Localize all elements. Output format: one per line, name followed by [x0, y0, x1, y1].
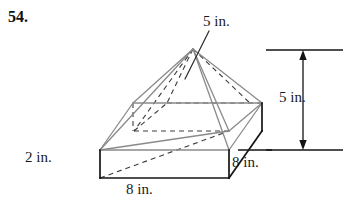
leader-line-path: [185, 31, 209, 79]
label-prism-thickness: 2 in.: [25, 149, 52, 166]
pyramid-hidden-edge-back-left: [167, 49, 193, 103]
pyramid-edge-back-left-silhouette: [133, 49, 193, 103]
prism-hidden-bottom-diagonal: [100, 131, 229, 178]
pyramid-face-fold-left: [100, 131, 229, 150]
label-total-height: 5 in.: [279, 89, 306, 106]
slant-leader-line: [185, 31, 209, 79]
pyramid-hidden-edge-front-left: [134, 49, 193, 131]
pyramid-edge-right-silhouette: [193, 49, 262, 103]
label-prism-width: 8 in.: [126, 181, 153, 198]
pyramid-edge-front-right: [193, 49, 229, 131]
geometry-figure-container: 54.: [0, 0, 348, 211]
pyramid-edge-left-silhouette: [100, 49, 193, 150]
pyramid-hidden-edge-back-right: [193, 49, 251, 104]
label-prism-depth: 8 in.: [232, 154, 259, 171]
dimension-arrow-up: [299, 50, 306, 60]
prism-top-left-edge: [100, 103, 133, 150]
dimension-arrow-down: [299, 140, 306, 150]
pyramid-visible-edges: [100, 49, 262, 150]
label-pyramid-slant: 5 in.: [203, 13, 230, 30]
